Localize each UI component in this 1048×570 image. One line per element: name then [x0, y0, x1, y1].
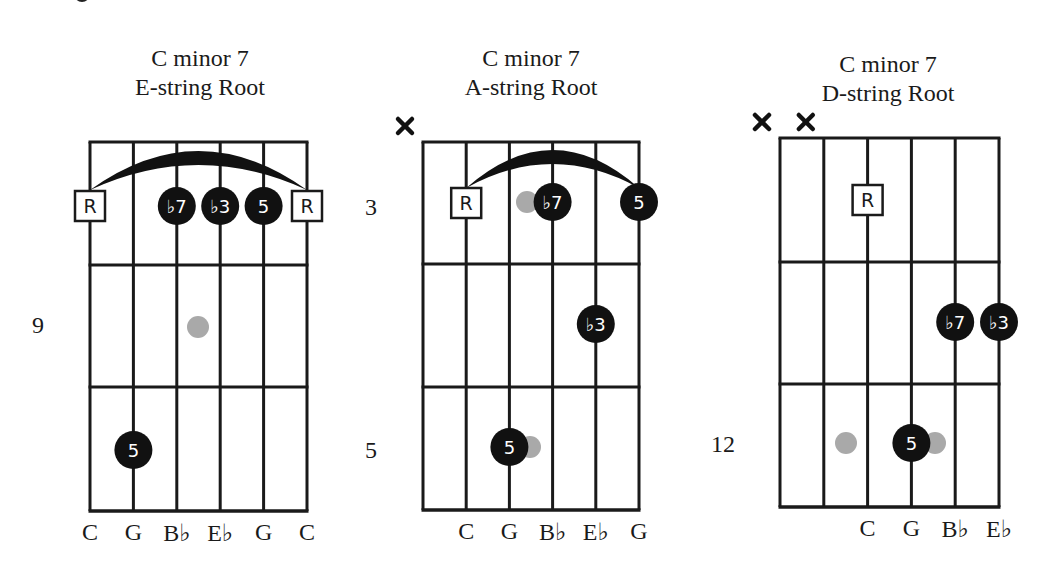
- ghost-note-dot: [187, 316, 209, 338]
- fretboard-canvas: R♭7♭35R5R♭75♭35R♭7♭35: [0, 0, 1048, 570]
- interval-note-dot: 5: [892, 424, 930, 462]
- interval-note-dot: ♭3: [201, 187, 239, 225]
- interval-note-dot: 5: [114, 431, 152, 469]
- fretboard-1: R♭75♭35: [398, 119, 658, 510]
- fretboard-2: R♭7♭35: [755, 115, 1018, 507]
- svg-text:♭7: ♭7: [945, 312, 965, 333]
- svg-text:R: R: [861, 189, 874, 211]
- svg-text:5: 5: [258, 196, 269, 217]
- muted-string-x-icon: [755, 115, 769, 129]
- muted-string-x-icon: [398, 119, 412, 133]
- svg-text:R: R: [460, 192, 473, 214]
- svg-text:R: R: [83, 195, 96, 217]
- root-note-box: R: [853, 185, 883, 215]
- muted-string-x-icon: [799, 115, 813, 129]
- svg-text:R: R: [300, 195, 313, 217]
- interval-note-dot: 5: [620, 183, 658, 221]
- svg-text:5: 5: [504, 437, 515, 458]
- fretboard-0: R♭7♭35R5: [75, 142, 322, 511]
- svg-text:5: 5: [906, 433, 917, 454]
- svg-text:5: 5: [633, 192, 644, 213]
- ghost-note-dot: [835, 432, 857, 454]
- interval-note-dot: 5: [490, 428, 528, 466]
- svg-text:♭3: ♭3: [989, 312, 1009, 333]
- svg-text:♭7: ♭7: [167, 196, 187, 217]
- interval-note-dot: 5: [245, 187, 283, 225]
- svg-text:♭7: ♭7: [543, 192, 563, 213]
- root-note-box: R: [292, 191, 322, 221]
- svg-text:5: 5: [128, 440, 139, 461]
- barre-arc: [90, 151, 307, 190]
- interval-note-dot: ♭7: [936, 303, 974, 341]
- root-note-box: R: [451, 188, 481, 218]
- root-note-box: R: [75, 191, 105, 221]
- interval-note-dot: ♭3: [577, 305, 615, 343]
- svg-text:♭3: ♭3: [586, 314, 606, 335]
- interval-note-dot: ♭3: [980, 303, 1018, 341]
- interval-note-dot: ♭7: [534, 183, 572, 221]
- interval-note-dot: ♭7: [158, 187, 196, 225]
- svg-text:♭3: ♭3: [210, 196, 230, 217]
